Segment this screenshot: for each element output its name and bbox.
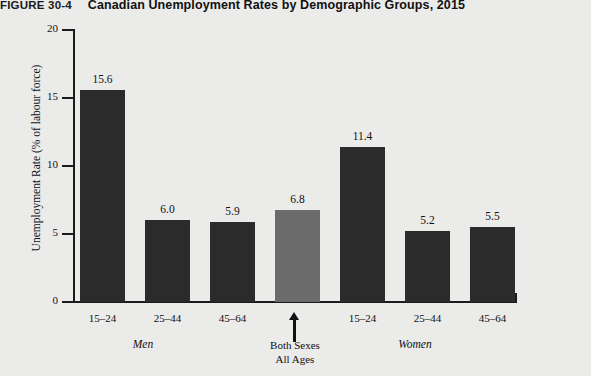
figure-caption: Canadian Unemployment Rates by Demograph…: [88, 0, 465, 12]
bar-3: [210, 222, 255, 302]
bar-1: [80, 90, 125, 302]
x-category-label-1: 15–24: [68, 312, 137, 324]
y-axis-title: Unemployment Rate (% of labour force): [30, 38, 42, 278]
figure-root: FIGURE 30-4Canadian Unemployment Rates b…: [0, 0, 591, 376]
bar-7: [470, 227, 515, 302]
x-category-label-3: 45–64: [198, 312, 267, 324]
y-tick-label-20: 20: [32, 22, 58, 34]
figure-title: FIGURE 30-4Canadian Unemployment Rates b…: [0, 0, 591, 15]
x-category-label-7: 45–64: [458, 312, 527, 324]
annotation-line-2: All Ages: [236, 353, 354, 367]
y-tick-20: [62, 29, 74, 31]
bar-value-label-5: 11.4: [330, 130, 395, 142]
y-tick-5: [62, 233, 74, 235]
bar-6: [405, 231, 450, 302]
x-category-label-5: 15–24: [328, 312, 397, 324]
bar-4: [275, 210, 320, 302]
bar-value-label-4: 6.8: [265, 193, 330, 205]
bar-value-label-6: 5.2: [395, 214, 460, 226]
x-axis-end-tick: [515, 293, 517, 303]
bar-5: [340, 147, 385, 302]
y-tick-10: [62, 165, 74, 167]
annotation-line-1: Both Sexes: [236, 339, 354, 353]
bar-value-label-2: 6.0: [135, 203, 200, 215]
group-label-men: Men: [83, 338, 203, 350]
bar-value-label-3: 5.9: [200, 205, 265, 217]
x-category-label-6: 25–44: [393, 312, 462, 324]
y-tick-15: [62, 97, 74, 99]
bar-value-label-1: 15.6: [70, 73, 135, 85]
group-label-women: Women: [355, 338, 475, 350]
bar-2: [145, 220, 190, 302]
annotation-both-sexes-all-ages: Both Sexes All Ages: [236, 339, 354, 366]
y-tick-label-0: 0: [32, 294, 58, 306]
annotation-arrow-icon: [288, 312, 300, 342]
bar-value-label-7: 5.5: [460, 210, 525, 222]
y-tick-0: [62, 301, 74, 303]
x-category-label-2: 25–44: [133, 312, 202, 324]
